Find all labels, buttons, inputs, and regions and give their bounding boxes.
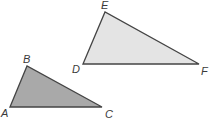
vertex-label-f: F xyxy=(201,65,209,77)
vertex-label-d: D xyxy=(72,63,80,75)
vertex-label-c: C xyxy=(105,108,113,120)
triangles-diagram: A B C D E F xyxy=(0,0,209,120)
vertex-label-e: E xyxy=(101,0,109,11)
vertex-label-b: B xyxy=(23,53,30,65)
vertex-label-a: A xyxy=(0,107,8,119)
triangle-abc xyxy=(10,66,102,107)
triangle-def xyxy=(83,12,199,64)
